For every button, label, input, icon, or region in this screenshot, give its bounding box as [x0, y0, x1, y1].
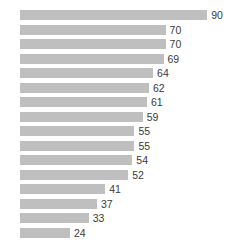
bar-track: 55: [20, 126, 150, 136]
bar-value-label: 55: [138, 126, 150, 136]
bar-track: 37: [20, 199, 113, 209]
bar-rect[interactable]: [20, 213, 89, 223]
bar-value-label: 70: [170, 39, 182, 49]
bar-track: 59: [20, 112, 158, 122]
bar-rect[interactable]: [20, 199, 97, 209]
bar-track: 54: [20, 155, 148, 165]
bar-rect[interactable]: [20, 83, 149, 93]
bar-value-label: 59: [147, 112, 159, 122]
bar-value-label: 54: [136, 155, 148, 165]
bar-track: 33: [20, 213, 104, 223]
bar-track: 62: [20, 83, 165, 93]
bar-value-label: 61: [151, 97, 163, 107]
bar-row: 55: [0, 124, 238, 139]
bar-track: 70: [20, 25, 181, 35]
bar-rect[interactable]: [20, 39, 166, 49]
bar-rect[interactable]: [20, 228, 70, 238]
bar-value-label: 64: [157, 68, 169, 78]
bar-row: 41: [0, 182, 238, 197]
bar-rect[interactable]: [20, 184, 105, 194]
bar-rect[interactable]: [20, 126, 134, 136]
bar-row: 37: [0, 197, 238, 212]
bar-row: 33: [0, 211, 238, 226]
bar-value-label: 37: [101, 199, 113, 209]
bar-value-label: 52: [132, 170, 144, 180]
bar-row: 61: [0, 95, 238, 110]
bar-rect[interactable]: [20, 141, 134, 151]
bar-rect[interactable]: [20, 54, 164, 64]
bar-track: 24: [20, 228, 86, 238]
bar-track: 69: [20, 54, 179, 64]
bar-value-label: 62: [153, 83, 165, 93]
bar-value-label: 90: [211, 10, 223, 20]
plot-area: 90707069646261595555545241373324: [0, 0, 238, 247]
bar-value-label: 55: [138, 141, 150, 151]
bar-rect[interactable]: [20, 25, 166, 35]
bar-track: 70: [20, 39, 181, 49]
bar-row: 55: [0, 139, 238, 154]
bar-row: 70: [0, 23, 238, 38]
bar-rect[interactable]: [20, 10, 207, 20]
bar-row: 69: [0, 52, 238, 67]
bar-value-label: 24: [74, 228, 86, 238]
bar-track: 61: [20, 97, 163, 107]
bar-rect[interactable]: [20, 68, 153, 78]
bar-rect[interactable]: [20, 170, 128, 180]
bar-rect[interactable]: [20, 155, 132, 165]
bar-row: 59: [0, 110, 238, 125]
bar-value-label: 33: [93, 213, 105, 223]
bar-rect[interactable]: [20, 97, 147, 107]
bar-row: 52: [0, 168, 238, 183]
bar-row: 54: [0, 153, 238, 168]
bar-track: 64: [20, 68, 169, 78]
bar-row: 24: [0, 226, 238, 241]
bar-value-label: 41: [109, 184, 121, 194]
bar-value-label: 70: [170, 25, 182, 35]
bar-row: 90: [0, 8, 238, 23]
bar-track: 41: [20, 184, 121, 194]
bar-row: 64: [0, 66, 238, 81]
bar-track: 55: [20, 141, 150, 151]
bar-row: 62: [0, 81, 238, 96]
bar-row: 70: [0, 37, 238, 52]
bar-track: 52: [20, 170, 144, 180]
bar-rect[interactable]: [20, 112, 143, 122]
bar-track: 90: [20, 10, 223, 20]
bar-value-label: 69: [168, 54, 180, 64]
bar-chart: 90707069646261595555545241373324: [0, 0, 238, 247]
